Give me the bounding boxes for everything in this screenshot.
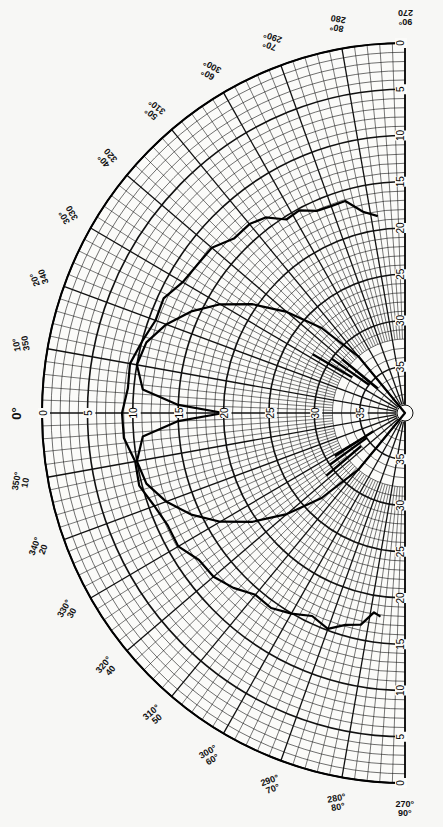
axis0-tick-label: 30: [310, 407, 321, 419]
upper-tick-label: 10: [395, 130, 406, 142]
lower-tick-label: 20: [395, 592, 406, 604]
angle-label-text: 0°: [12, 407, 21, 419]
upper-tick-label: 15: [395, 176, 406, 188]
angle-label-text: 280: [330, 13, 346, 24]
axis0-tick-label: 0: [38, 410, 49, 416]
lower-tick-label: 35: [395, 453, 406, 465]
angle-label-0: 0°: [12, 407, 21, 419]
axis0-tick-label: 35: [355, 407, 366, 419]
polar-radiation-chart: 0005551010101515152020202525253030303535…: [0, 0, 443, 827]
angle-label-90: 90°270: [398, 8, 413, 26]
axis0-tick-label: 15: [174, 407, 185, 419]
axis0-tick-label: 10: [128, 407, 139, 419]
upper-tick-label: 25: [395, 268, 406, 280]
lower-tick-label: 10: [395, 685, 406, 697]
lower-tick-label: 25: [395, 546, 406, 558]
lower-tick-label: 5: [395, 734, 406, 740]
angle-label-text: 270: [398, 8, 413, 17]
upper-tick-label: 20: [395, 222, 406, 234]
axis0-tick-label: 25: [265, 407, 276, 419]
lower-tick-label: 15: [395, 638, 406, 650]
angle-label-text: 90°: [396, 809, 415, 818]
angle-label-text: 90°: [398, 17, 413, 26]
axis0-tick-label: 20: [219, 407, 230, 419]
angle-label-80: 80°280: [328, 13, 346, 33]
upper-tick-label: 30: [395, 315, 406, 327]
angle-label-m10: 350°10: [11, 471, 32, 492]
angle-label-m80: 280°80°: [327, 792, 348, 813]
upper-tick-label: 35: [395, 361, 406, 373]
lower-tick-label: 0: [395, 780, 406, 786]
angle-label-m90: 270°90°: [396, 800, 415, 818]
upper-tick-label: 0: [395, 40, 406, 46]
lower-tick-label: 30: [395, 500, 406, 512]
upper-tick-label: 5: [395, 86, 406, 92]
axis0-tick-label: 5: [83, 410, 94, 416]
